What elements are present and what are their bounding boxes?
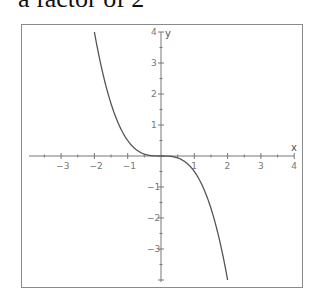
x-axis-label: x	[291, 142, 297, 153]
x-tick-label: 2	[225, 161, 231, 171]
y-tick-label: 1	[151, 120, 157, 130]
tick-labels: −3−2−112344321−1−2−3	[56, 27, 297, 254]
y-axis-label: y	[165, 28, 171, 39]
x-tick-label: −2	[89, 161, 102, 171]
y-tick-label: −2	[147, 213, 160, 223]
axes	[29, 32, 294, 282]
y-tick-label: 3	[151, 58, 157, 68]
function-plot: −3−2−112344321−1−2−3 x y	[0, 0, 317, 297]
y-tick-label: 4	[151, 27, 157, 37]
y-tick-label: −1	[147, 182, 160, 192]
x-tick-label: 4	[291, 161, 297, 171]
x-tick-label: −1	[123, 161, 136, 171]
x-tick-label: −3	[56, 161, 69, 171]
y-tick-label: 2	[151, 89, 157, 99]
y-tick-label: −3	[147, 244, 160, 254]
x-tick-label: 3	[258, 161, 264, 171]
